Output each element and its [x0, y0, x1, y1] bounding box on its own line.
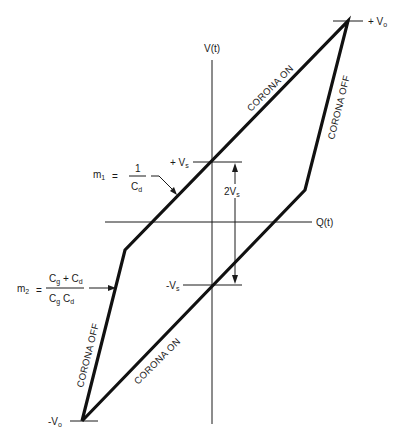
m1-annotation: m1 = 1 Cd [93, 163, 177, 195]
q-axis-label: Q(t) [316, 217, 333, 228]
svg-text:m1: m1 [93, 169, 105, 181]
upper-corona-on-label: CORONA ON [245, 63, 296, 114]
svg-text:Cg Cd: Cg Cd [49, 293, 74, 306]
arrow-down-icon [232, 275, 238, 284]
hysteresis-diagram: V(t) Q(t) + Vo -Vo + Vs -Vs 2Vs CORONA O… [0, 0, 409, 445]
minus-vo-label: -Vo [48, 416, 62, 428]
plus-vo-label: + Vo [368, 16, 387, 28]
hysteresis-loop [82, 21, 348, 421]
svg-text:1: 1 [135, 163, 141, 174]
right-corona-off-label: CORONA OFF [325, 74, 352, 141]
svg-text:Cd: Cd [131, 181, 142, 193]
minus-vs-label: -Vs [166, 280, 180, 292]
m2-annotation: m2 = Cg + Cd Cg Cd [17, 273, 116, 306]
svg-text:Cg + Cd: Cg + Cd [49, 273, 83, 286]
left-corona-off-label: CORONA OFF [74, 322, 101, 389]
svg-text:=: = [36, 285, 42, 296]
arrow-up-icon [232, 163, 238, 172]
v-axis-label: V(t) [204, 43, 220, 54]
svg-text:m2: m2 [17, 283, 29, 295]
plus-vs-label: + Vs [170, 157, 189, 169]
svg-text:=: = [112, 171, 118, 182]
